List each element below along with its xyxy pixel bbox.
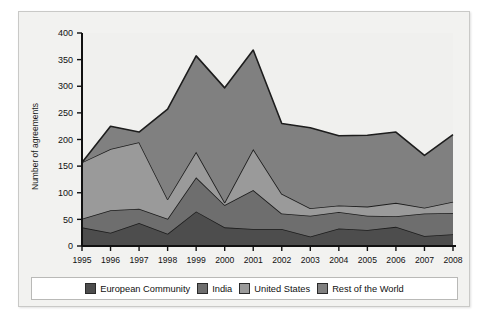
y-tick-label: 50 <box>63 215 73 225</box>
x-tick-label-1995: 1995 <box>72 255 91 265</box>
x-tick-label-1996: 1996 <box>101 255 120 265</box>
y-tick-label: 100 <box>58 188 73 198</box>
y-tick-label: 250 <box>58 108 73 118</box>
legend-label-united-states: United States <box>254 284 310 294</box>
legend-item-united-states[interactable]: United States <box>239 283 310 294</box>
legend-label-rest-of-the-world: Rest of the World <box>332 284 404 294</box>
y-tick-label: 150 <box>58 161 73 171</box>
legend-label-european-community: European Community <box>100 284 190 294</box>
x-tick-label-2005: 2005 <box>358 255 377 265</box>
x-tick-label-2001: 2001 <box>244 255 263 265</box>
x-tick-label-1997: 1997 <box>130 255 149 265</box>
legend-swatch-rest-of-the-world <box>317 283 328 294</box>
legend-swatch-european-community <box>85 283 96 294</box>
chart-figure: 050100150200250300350400 199519961997199… <box>0 0 488 329</box>
x-tick-label-2004: 2004 <box>329 255 348 265</box>
x-tick-label-1999: 1999 <box>187 255 206 265</box>
x-tick-label-2007: 2007 <box>415 255 434 265</box>
legend-item-india[interactable]: India <box>197 283 232 294</box>
x-tick-label-1998: 1998 <box>158 255 177 265</box>
x-tick-label-2002: 2002 <box>272 255 291 265</box>
legend-item-european-community[interactable]: European Community <box>85 283 190 294</box>
x-tick-label-2006: 2006 <box>386 255 405 265</box>
x-tick-label-2008: 2008 <box>443 255 462 265</box>
y-tick-label: 0 <box>68 241 73 251</box>
x-tick-label-2000: 2000 <box>215 255 234 265</box>
y-tick-label: 350 <box>58 55 73 65</box>
legend-swatch-united-states <box>239 283 250 294</box>
x-tick-group: 1995199619971998199920002001200220032004… <box>72 246 462 265</box>
y-tick-label: 300 <box>58 81 73 91</box>
y-tick-group: 050100150200250300350400 <box>58 28 82 251</box>
chart-legend: European Community India United States R… <box>31 277 458 300</box>
x-tick-label-2003: 2003 <box>301 255 320 265</box>
y-tick-label: 200 <box>58 135 73 145</box>
legend-label-india: India <box>212 284 232 294</box>
y-tick-label: 400 <box>58 28 73 38</box>
y-axis-label: Number of agreements <box>30 103 40 190</box>
legend-swatch-india <box>197 283 208 294</box>
legend-item-rest-of-the-world[interactable]: Rest of the World <box>317 283 404 294</box>
